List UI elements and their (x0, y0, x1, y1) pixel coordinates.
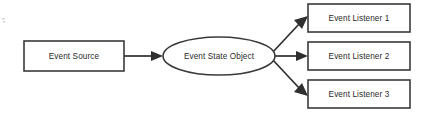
node-event-listener-1[interactable]: Event Listener 1 (308, 4, 410, 32)
node-event-listener-3-label: Event Listener 3 (329, 90, 390, 99)
node-event-listener-2[interactable]: Event Listener 2 (308, 42, 410, 70)
edge-state-to-listener-3 (272, 59, 308, 96)
arrowhead-icon (151, 51, 163, 61)
diagram-canvas: Event Source Event State Object Event Li… (0, 0, 421, 113)
edge-source-to-state (124, 51, 163, 61)
edge-state-to-listener-2 (275, 51, 308, 61)
node-event-source-label: Event Source (49, 52, 100, 61)
diagram-svg: Event Source Event State Object Event Li… (0, 0, 421, 113)
node-event-listener-3[interactable]: Event Listener 3 (308, 80, 410, 108)
node-event-listener-2-label: Event Listener 2 (329, 52, 390, 61)
node-event-state-object[interactable]: Event State Object (163, 37, 275, 75)
scan-artifact-speck (2, 18, 5, 20)
node-event-state-object-label: Event State Object (184, 52, 255, 61)
edge-state-to-listener-1 (272, 16, 308, 53)
arrowhead-icon (296, 51, 308, 61)
node-event-listener-1-label: Event Listener 1 (329, 14, 390, 23)
node-event-source[interactable]: Event Source (24, 41, 124, 71)
scan-artifact-speck-2 (3, 21, 5, 22)
